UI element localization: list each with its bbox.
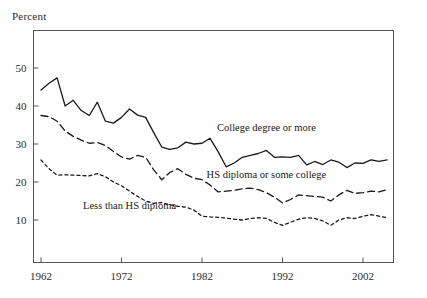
y-tick-label: 50 <box>16 62 28 74</box>
x-tick-label: 2002 <box>352 270 374 282</box>
x-tick-label: 1992 <box>272 270 294 282</box>
series-annotation-0: College degree or more <box>217 122 316 133</box>
series-line-0 <box>41 78 387 168</box>
x-tick-label: 1962 <box>30 270 52 282</box>
y-tick-label: 40 <box>16 100 28 112</box>
y-tick-label: 20 <box>16 176 28 188</box>
series-annotation-1: HS diploma or some college <box>207 169 327 180</box>
line-chart-plot: 1020304050 19621972198219922002 College … <box>0 0 427 298</box>
y-axis-ticks: 1020304050 <box>16 62 39 226</box>
x-tick-label: 1972 <box>111 270 133 282</box>
x-tick-label: 1982 <box>191 270 213 282</box>
y-tick-label: 10 <box>16 214 28 226</box>
plot-frame <box>34 31 394 263</box>
series-annotation-2: Less than HS diploma <box>83 200 176 211</box>
chart-container: Percent 1020304050 19621972198219922002 … <box>0 0 427 298</box>
x-axis-ticks: 19621972198219922002 <box>30 258 374 282</box>
y-tick-label: 30 <box>16 138 28 150</box>
series-annotations: College degree or moreHS diploma or some… <box>83 122 326 211</box>
series-line-1 <box>41 116 387 203</box>
